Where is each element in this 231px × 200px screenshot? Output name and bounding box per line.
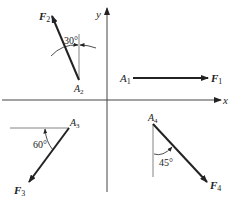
force-f2-angle-arc-right: [80, 45, 96, 48]
force-f3-angle-label: 60°: [33, 139, 47, 150]
coordinate-axes: x y: [2, 8, 228, 192]
force-f1-label: F1: [210, 72, 222, 86]
x-axis-label: x: [222, 94, 228, 106]
force-f4-arrow: [153, 124, 207, 182]
force-f2-label: F2: [38, 10, 50, 24]
force-f2-angle-arc: [51, 45, 78, 56]
force-f4-angle-arc: [154, 147, 172, 155]
point-a4-label: A4: [147, 112, 158, 125]
force-diagram: x y A1 F1 30° A2 F2: [0, 0, 231, 200]
force-f4-angle-label: 45°: [159, 157, 173, 168]
diagram-svg: x y A1 F1 30° A2 F2: [0, 0, 231, 200]
y-axis-label: y: [95, 8, 101, 20]
force-f4: 45° A4 F4: [147, 112, 221, 193]
point-a1-label: A1: [119, 72, 131, 86]
force-f3: 60° A3 F3: [10, 117, 80, 198]
force-f1: A1 F1: [119, 72, 222, 86]
force-f2-arrow: [52, 16, 79, 80]
point-a2-label: A2: [73, 83, 84, 96]
force-f3-label: F3: [13, 184, 25, 198]
force-f4-label: F4: [209, 179, 221, 193]
force-f3-arrow: [29, 128, 69, 182]
point-a3-label: A3: [69, 117, 80, 130]
force-f2: 30° A2 F2: [38, 10, 96, 96]
force-f2-angle-label: 30°: [64, 35, 78, 46]
